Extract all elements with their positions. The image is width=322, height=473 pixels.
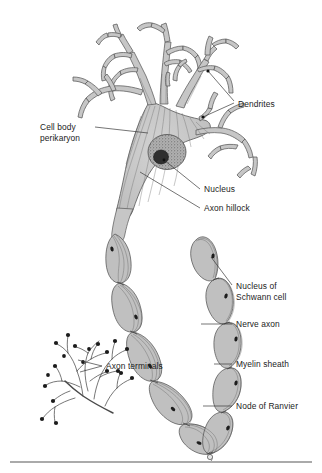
label-axon-terminals: Axon terminals	[106, 361, 163, 371]
anchor-dendrite-2	[201, 115, 204, 118]
dendrite-sprout-c3	[165, 72, 170, 86]
anchor-nucleus	[163, 159, 166, 162]
label-schwann-nucleus-line1: Nucleus of	[236, 281, 277, 291]
anchor-dendrite-1	[206, 69, 209, 72]
label-myelin-sheath: Myelin sheath	[236, 359, 289, 369]
label-dendrites: Dendrites	[238, 99, 275, 109]
nucleus-group	[148, 135, 186, 170]
neuron-illustration: Dendrites Cell body perikaryon Nucleus A…	[0, 0, 322, 473]
label-nerve-axon: Nerve axon	[236, 319, 280, 329]
label-cell-body-line1: Cell body	[40, 122, 77, 132]
label-node-of-ranvier: Node of Ranvier	[236, 401, 298, 411]
label-schwann-nucleus-line2: Schwann cell	[236, 292, 287, 302]
label-cell-body-line2: perikaryon	[40, 133, 80, 143]
neuron-diagram-figure: Dendrites Cell body perikaryon Nucleus A…	[0, 0, 322, 473]
nucleus-membrane	[148, 135, 186, 170]
label-nucleus: Nucleus	[204, 184, 235, 194]
label-axon-hillock: Axon hillock	[204, 203, 251, 213]
